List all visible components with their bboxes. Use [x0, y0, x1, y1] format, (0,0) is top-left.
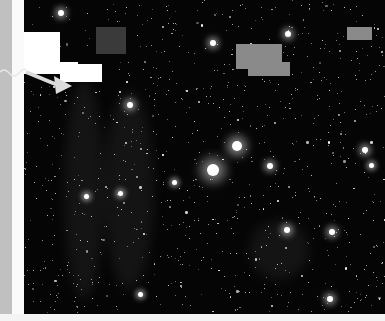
star — [182, 35, 183, 36]
bright-star — [138, 292, 143, 297]
star — [154, 99, 155, 100]
star — [370, 253, 371, 254]
star — [155, 93, 156, 94]
star — [143, 275, 144, 276]
star — [307, 56, 308, 57]
star — [98, 282, 99, 283]
star — [142, 24, 143, 25]
star — [186, 227, 187, 228]
star — [107, 188, 108, 189]
star — [140, 46, 141, 47]
star — [355, 109, 356, 110]
star — [359, 63, 360, 64]
star — [278, 84, 279, 85]
star — [303, 19, 305, 21]
star — [189, 107, 190, 108]
star — [294, 161, 296, 163]
dark-occluder-block — [96, 27, 126, 54]
star — [131, 212, 132, 213]
star — [77, 307, 78, 308]
star — [54, 280, 56, 282]
star — [201, 260, 202, 261]
star — [274, 122, 276, 124]
star — [175, 11, 176, 12]
star — [168, 257, 169, 258]
star — [158, 158, 159, 159]
star — [232, 49, 233, 50]
star — [210, 88, 212, 90]
star — [27, 133, 28, 134]
star — [339, 44, 340, 45]
star — [308, 33, 309, 34]
star — [60, 104, 61, 105]
star — [276, 170, 277, 171]
star — [341, 131, 342, 132]
star — [373, 202, 374, 203]
star — [52, 244, 53, 245]
star — [333, 119, 334, 120]
star — [123, 294, 124, 295]
star — [325, 238, 327, 240]
star — [380, 201, 381, 202]
star — [324, 77, 325, 78]
star — [340, 142, 341, 143]
star — [275, 284, 276, 285]
star — [381, 108, 382, 109]
star — [234, 98, 235, 99]
star — [376, 286, 377, 287]
star — [283, 173, 284, 174]
star — [234, 286, 235, 287]
star — [182, 304, 183, 305]
star — [51, 180, 52, 181]
star — [156, 150, 157, 151]
star — [288, 186, 290, 188]
star — [178, 260, 179, 261]
star — [326, 213, 327, 214]
star — [280, 101, 281, 102]
star — [61, 155, 62, 156]
star — [141, 190, 142, 191]
star — [294, 47, 295, 48]
star — [217, 155, 218, 156]
star — [259, 143, 260, 144]
star — [217, 44, 218, 45]
star — [293, 54, 294, 55]
star — [287, 306, 288, 307]
star — [278, 186, 279, 187]
star — [92, 282, 93, 283]
star — [291, 27, 293, 29]
star — [54, 235, 55, 236]
star — [163, 184, 164, 185]
star — [285, 46, 286, 47]
star — [235, 275, 236, 276]
star — [116, 285, 117, 286]
star — [271, 9, 273, 11]
star — [25, 247, 26, 248]
star — [130, 98, 131, 99]
star — [27, 152, 28, 153]
star — [175, 281, 176, 282]
star — [244, 197, 245, 198]
star — [295, 195, 296, 196]
star — [223, 73, 225, 75]
star — [198, 220, 199, 221]
star — [47, 145, 48, 146]
star-field-image — [24, 0, 385, 314]
star — [149, 95, 151, 97]
star — [154, 105, 155, 106]
star — [196, 163, 197, 164]
star — [86, 250, 88, 252]
star — [77, 312, 78, 313]
star — [38, 107, 39, 108]
star — [141, 221, 143, 223]
star — [269, 39, 270, 40]
star — [370, 141, 372, 143]
star — [168, 285, 169, 286]
star — [99, 116, 100, 117]
star — [85, 30, 86, 31]
star — [301, 115, 302, 116]
star — [356, 276, 357, 277]
star — [383, 242, 384, 243]
star — [181, 287, 182, 288]
star — [308, 243, 309, 244]
